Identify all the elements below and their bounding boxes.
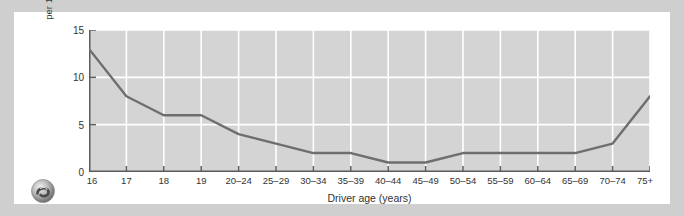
x-tick-label: 50–54 [450,175,476,186]
x-tick-label: 60–64 [525,175,551,186]
x-tick-label: 65–69 [562,175,588,186]
y-axis-title-line1: Fatal crash involvement [32,0,44,20]
y-tick-label: 10 [58,72,84,83]
axis-tick-marks [89,30,650,172]
x-axis-tick-labels: 1617181920–2425–2930–3435–3940–4445–4950… [89,175,650,189]
x-axis-title: Driver age (years) [89,192,650,204]
y-axis-title: Fatal crash involvement per 100 million … [28,0,58,30]
publisher-swirl-logo-icon [30,178,56,204]
x-tick-label: 35–39 [338,175,364,186]
x-tick-label: 20–24 [225,175,251,186]
y-tick-label: 0 [58,167,84,178]
x-tick-label: 30–34 [300,175,326,186]
x-tick-label: 17 [121,175,132,186]
x-tick-label: 16 [87,175,98,186]
x-tick-label: 25–29 [263,175,289,186]
plot-frame [89,30,650,172]
x-tick-label: 75+ [637,175,653,186]
x-tick-label: 19 [196,175,207,186]
y-tick-label: 5 [58,119,84,130]
x-tick-label: 55–59 [487,175,513,186]
y-tick-label: 15 [58,25,84,36]
gridlines [89,30,650,172]
x-tick-label: 40–44 [375,175,401,186]
chart-canvas [89,30,650,172]
x-tick-label: 70–74 [599,175,625,186]
data-series-line [89,49,650,163]
x-tick-label: 45–49 [412,175,438,186]
figure-card: Fatal crash involvement per 100 million … [14,12,670,204]
x-tick-label: 18 [159,175,170,186]
axis-lines [89,30,650,172]
y-axis-title-line2: per 100 million miles, 1995–1996 [43,0,55,20]
